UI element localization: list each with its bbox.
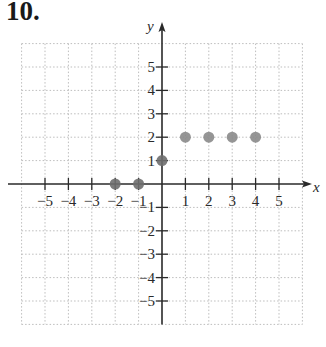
y-tick-label: 3	[148, 106, 156, 122]
x-tick-label: −5	[37, 193, 53, 209]
y-tick-label: −2	[139, 223, 155, 239]
y-tick-label: −5	[139, 293, 155, 309]
y-tick-label: −1	[139, 199, 155, 215]
x-tick-label: −2	[107, 193, 123, 209]
x-tick-label: 5	[275, 193, 283, 209]
x-tick-label: 1	[182, 193, 190, 209]
data-point	[227, 132, 238, 143]
x-tick-label: 2	[205, 193, 213, 209]
data-point	[157, 155, 168, 166]
data-point	[180, 132, 191, 143]
y-tick-label: 4	[148, 82, 156, 98]
x-tick-label: 3	[228, 193, 236, 209]
x-tick-label: −4	[60, 193, 76, 209]
data-point	[133, 179, 144, 190]
y-tick-label: 1	[148, 153, 156, 169]
data-point	[110, 179, 121, 190]
data-point	[250, 132, 261, 143]
coordinate-plane: −5−4−3−2−112345−5−4−3−2−112345 x y	[0, 0, 326, 347]
x-tick-label: 4	[252, 193, 260, 209]
data-point	[203, 132, 214, 143]
y-axis-label: y	[145, 18, 154, 34]
y-tick-label: 5	[148, 59, 156, 75]
y-tick-label: −3	[139, 246, 155, 262]
x-axis-label: x	[312, 179, 320, 195]
y-tick-label: 2	[148, 129, 156, 145]
y-tick-label: −4	[139, 270, 155, 286]
x-tick-label: −3	[84, 193, 100, 209]
